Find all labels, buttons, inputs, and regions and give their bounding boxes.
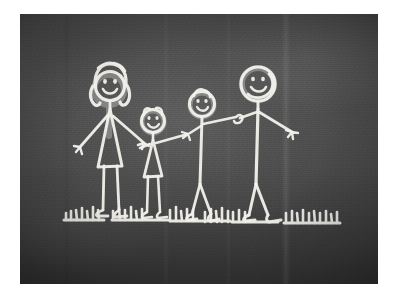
mother-eye-left [103, 79, 107, 84]
father-eye-left [251, 77, 255, 82]
mother-leg-left [103, 166, 104, 210]
father-head-outer [241, 67, 275, 101]
boy-smile [197, 107, 208, 111]
mother-leg-right [117, 166, 119, 210]
boy-eye-left [196, 99, 199, 103]
girl-eye-right [155, 116, 158, 120]
father-arm-right [259, 112, 292, 132]
father-smile [251, 87, 266, 92]
boy-arm-left [190, 126, 201, 133]
girl-shoe-right [157, 212, 167, 218]
girl-leg-left [147, 176, 148, 212]
image-canvas: Chalk drawing of a family on a blackboar… [0, 0, 394, 298]
figure-boy [187, 89, 243, 221]
girl-smile [148, 124, 159, 128]
boy-leg-right [200, 184, 211, 214]
girl-shoe-left [142, 212, 152, 218]
girl-eye-left [147, 116, 150, 120]
figure-father [240, 67, 298, 222]
mother-smile [103, 89, 117, 94]
father-leg-left [249, 184, 256, 215]
girl-leg-right [158, 176, 160, 212]
mother-eye-right [113, 79, 117, 84]
father-body [256, 109, 258, 184]
mother-hand-left [74, 146, 82, 154]
father-leg-right [256, 184, 268, 215]
chalk-drawing [20, 14, 378, 284]
figure-mother [74, 63, 149, 217]
figure-girl [140, 108, 190, 218]
boy-eye-right [204, 99, 207, 103]
chalkboard [20, 14, 378, 284]
father-eye-right [261, 77, 265, 82]
father-hand-right [286, 130, 298, 139]
